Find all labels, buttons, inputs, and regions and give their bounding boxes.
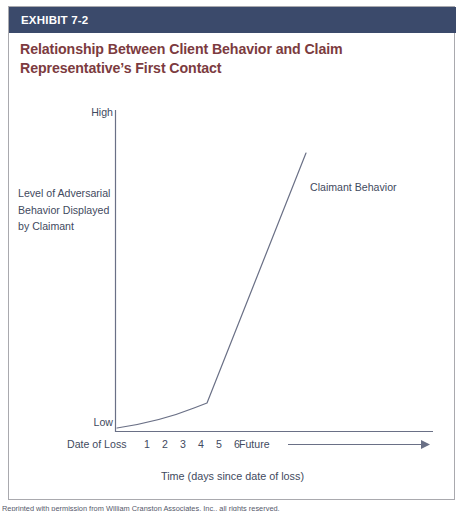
x-tick-label-4: 4 [194, 437, 208, 451]
x-tick-label-1: 1 [140, 437, 154, 451]
chart-canvas: High Low Level of Adversarial Behavior D… [9, 7, 456, 501]
x-tick-label-3: 3 [176, 437, 190, 451]
y-axis-title-line-3: by Claimant [18, 218, 118, 235]
x-axis-origin-label: Date of Loss [67, 437, 126, 451]
x-axis-title: Time (days since date of loss) [9, 469, 456, 483]
source-note: Reprinted with permission from William C… [2, 504, 464, 511]
future-arrow-head [421, 440, 430, 449]
chart-plot-svg [9, 7, 456, 501]
x-tick-label-6: 6 [230, 437, 244, 451]
x-tick-label-5: 5 [212, 437, 226, 451]
y-axis-high-label: High [73, 105, 113, 119]
y-axis-low-label: Low [73, 415, 113, 429]
y-axis-title-line-2: Behavior Displayed [18, 202, 118, 219]
exhibit-border-box: EXHIBIT 7-2 Relationship Between Client … [8, 6, 455, 500]
y-axis-title-line-1: Level of Adversarial [18, 185, 118, 202]
exhibit-number-label: EXHIBIT 7-2 [21, 13, 88, 27]
exhibit-header-band: EXHIBIT 7-2 [9, 7, 456, 33]
exhibit-title: Relationship Between Client Behavior and… [20, 40, 444, 78]
x-axis-future-label: Future [239, 437, 270, 451]
exhibit-figure: EXHIBIT 7-2 Relationship Between Client … [0, 0, 466, 511]
claimant-behavior-line [117, 153, 306, 428]
x-tick-label-2: 2 [158, 437, 172, 451]
y-axis-title: Level of Adversarial Behavior Displayed … [18, 185, 118, 235]
claimant-behavior-annotation: Claimant Behavior [310, 180, 397, 194]
